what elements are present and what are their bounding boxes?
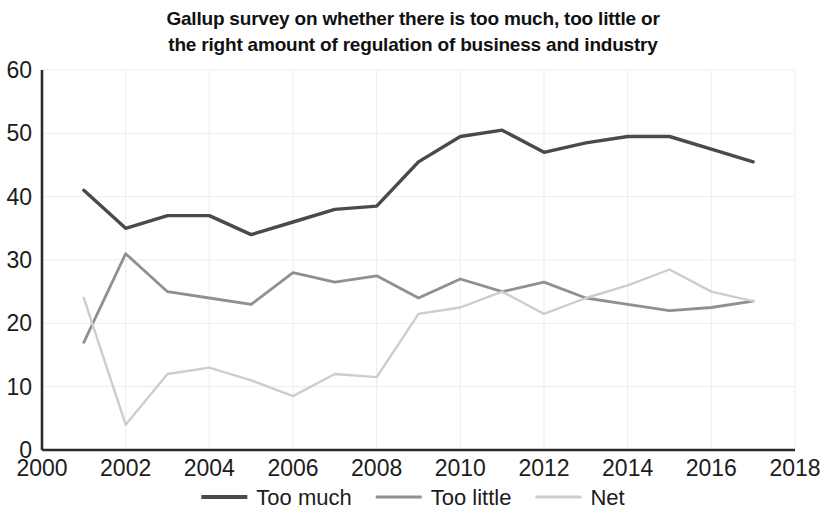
series-line-too-little: [84, 254, 753, 343]
chart-legend: Too muchToo littleNet: [201, 485, 624, 510]
x-tick-label: 2008: [351, 455, 402, 481]
y-tick-label: 40: [6, 184, 32, 210]
legend-label-net: Net: [590, 485, 624, 510]
series-line-net: [84, 270, 753, 425]
x-tick-label: 2018: [769, 455, 820, 481]
chart-figure: Gallup survey on whether there is too mu…: [0, 0, 826, 514]
x-tick-label: 2012: [518, 455, 569, 481]
chart-gridlines: [42, 70, 795, 450]
chart-plot-area: 0102030405060 20002002200420062008201020…: [0, 0, 826, 514]
x-tick-label: 2014: [602, 455, 653, 481]
x-tick-label: 2016: [686, 455, 737, 481]
y-tick-label: 30: [6, 247, 32, 273]
series-line-too-much: [84, 130, 753, 235]
y-tick-label: 20: [6, 310, 32, 336]
x-tick-label: 2002: [100, 455, 151, 481]
chart-x-axis-ticks: 2000200220042006200820102012201420162018: [16, 455, 820, 481]
legend-label-too-little: Too little: [431, 485, 512, 510]
x-tick-label: 2000: [16, 455, 67, 481]
y-tick-label: 50: [6, 120, 32, 146]
chart-series-group: [84, 130, 753, 425]
x-tick-label: 2006: [267, 455, 318, 481]
y-tick-label: 60: [6, 57, 32, 83]
legend-label-too-much: Too much: [256, 485, 351, 510]
x-tick-label: 2004: [184, 455, 235, 481]
chart-y-axis-ticks: 0102030405060: [6, 57, 32, 463]
x-tick-label: 2010: [435, 455, 486, 481]
y-tick-label: 10: [6, 374, 32, 400]
